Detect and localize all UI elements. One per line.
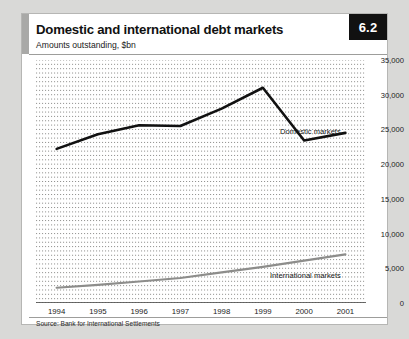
y-tick-label: 0: [400, 299, 404, 308]
x-tick-label: 2000: [295, 307, 312, 316]
source-divider: [29, 317, 387, 318]
header-divider: [29, 54, 387, 55]
series-label-domestic: Domestic markets: [280, 127, 341, 136]
y-tick-label: 35,000: [381, 56, 404, 65]
chart-subtitle: Amounts outstanding, $bn: [36, 40, 136, 50]
x-tick-label: 1997: [172, 307, 189, 316]
screenshot-root: 6.2 Domestic and international debt mark…: [0, 0, 409, 339]
plot-area: [36, 60, 366, 303]
x-tick-label: 1998: [213, 307, 230, 316]
y-tick-label: 5,000: [385, 264, 404, 273]
chart-title: Domestic and international debt markets: [36, 22, 283, 37]
title-accent-bar: [22, 14, 29, 54]
x-tick-label: 1999: [254, 307, 271, 316]
y-tick-label: 25,000: [381, 125, 404, 134]
line-chart-svg: [36, 60, 366, 303]
x-tick-label: 2001: [337, 307, 354, 316]
series-group: [57, 88, 346, 288]
x-axis-labels: 19941995199619971998199920002001: [36, 307, 366, 321]
gridlines-group: [36, 60, 366, 303]
series-label-international: International markets: [270, 271, 341, 280]
y-tick-label: 20,000: [381, 160, 404, 169]
y-axis-labels: 05,00010,00015,00020,00025,00030,00035,0…: [370, 60, 404, 303]
chart-number-badge: 6.2: [349, 14, 387, 40]
series-line-domestic-markets: [57, 88, 346, 149]
chart-card: 6.2 Domestic and international debt mark…: [22, 14, 387, 324]
y-tick-label: 15,000: [381, 194, 404, 203]
x-tick-label: 1996: [130, 307, 147, 316]
x-tick-label: 1995: [89, 307, 106, 316]
y-tick-label: 30,000: [381, 90, 404, 99]
source-note: Source: Bank for International Settlemen…: [36, 320, 160, 327]
y-tick-label: 10,000: [381, 229, 404, 238]
x-tick-label: 1994: [48, 307, 65, 316]
